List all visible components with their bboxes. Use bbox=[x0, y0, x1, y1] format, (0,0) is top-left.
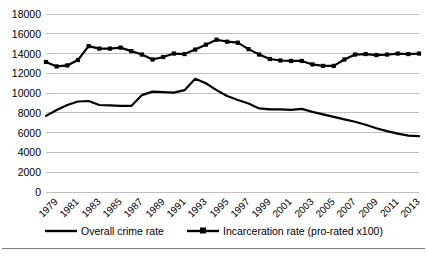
legend-item-1: Overall crime rate bbox=[44, 225, 164, 237]
series-marker bbox=[332, 64, 336, 68]
y-axis-tick-label: 10000 bbox=[12, 88, 41, 99]
y-axis-tick-label: 0 bbox=[35, 187, 41, 198]
legend-item-2: Incarceration rate (pro-rated x100) bbox=[186, 225, 383, 237]
series-marker bbox=[310, 62, 314, 66]
series-marker bbox=[278, 58, 282, 62]
series-marker bbox=[119, 46, 123, 50]
series-marker bbox=[193, 48, 197, 52]
y-axis-tick-label: 4000 bbox=[18, 147, 41, 158]
y-axis-tick-label: 16000 bbox=[12, 29, 41, 40]
y-axis-tick-label: 6000 bbox=[18, 128, 41, 139]
series-marker bbox=[55, 64, 59, 68]
series-marker bbox=[76, 58, 80, 62]
y-axis-tick-label: 12000 bbox=[12, 68, 41, 79]
series-marker bbox=[396, 51, 400, 55]
series-marker bbox=[182, 52, 186, 56]
series-marker bbox=[129, 49, 133, 53]
chart-legend: Overall crime rateIncarceration rate (pr… bbox=[0, 222, 427, 240]
series-marker bbox=[172, 51, 176, 55]
crime-incarceration-line-chart: 1800016000140001200010000800060004000200… bbox=[0, 0, 427, 257]
series-marker bbox=[87, 44, 91, 48]
series-marker bbox=[321, 64, 325, 68]
series-marker bbox=[417, 51, 421, 55]
legend-line-icon bbox=[44, 225, 78, 237]
series-marker bbox=[236, 41, 240, 45]
bottom-divider bbox=[2, 248, 425, 249]
series-marker bbox=[108, 47, 112, 51]
series-marker bbox=[140, 52, 144, 56]
y-axis-tick-label: 18000 bbox=[12, 9, 41, 20]
series-marker bbox=[214, 38, 218, 42]
series-marker bbox=[44, 60, 48, 64]
series-marker bbox=[406, 52, 410, 56]
data-series bbox=[44, 38, 421, 137]
series-marker bbox=[385, 52, 389, 56]
series-marker bbox=[161, 55, 165, 59]
legend-label: Overall crime rate bbox=[81, 225, 164, 237]
series-marker bbox=[225, 40, 229, 44]
legend-label: Incarceration rate (pro-rated x100) bbox=[223, 225, 383, 237]
series-marker bbox=[268, 57, 272, 61]
series-marker bbox=[246, 47, 250, 51]
series-marker bbox=[353, 52, 357, 56]
y-axis-tick-label: 8000 bbox=[18, 108, 41, 119]
y-axis-tick-label: 2000 bbox=[18, 167, 41, 178]
series-marker bbox=[257, 52, 261, 56]
series-marker bbox=[97, 47, 101, 51]
series-marker bbox=[65, 63, 69, 67]
y-axis-tick-label: 14000 bbox=[12, 49, 41, 60]
series-marker bbox=[374, 53, 378, 57]
gridlines bbox=[46, 14, 419, 192]
series-marker bbox=[342, 57, 346, 61]
series-marker bbox=[204, 43, 208, 47]
series-line-1 bbox=[46, 79, 419, 136]
series-marker bbox=[364, 52, 368, 56]
series-marker bbox=[289, 59, 293, 63]
legend-line-square-icon bbox=[186, 225, 220, 237]
series-marker bbox=[300, 59, 304, 63]
series-marker bbox=[150, 57, 154, 61]
